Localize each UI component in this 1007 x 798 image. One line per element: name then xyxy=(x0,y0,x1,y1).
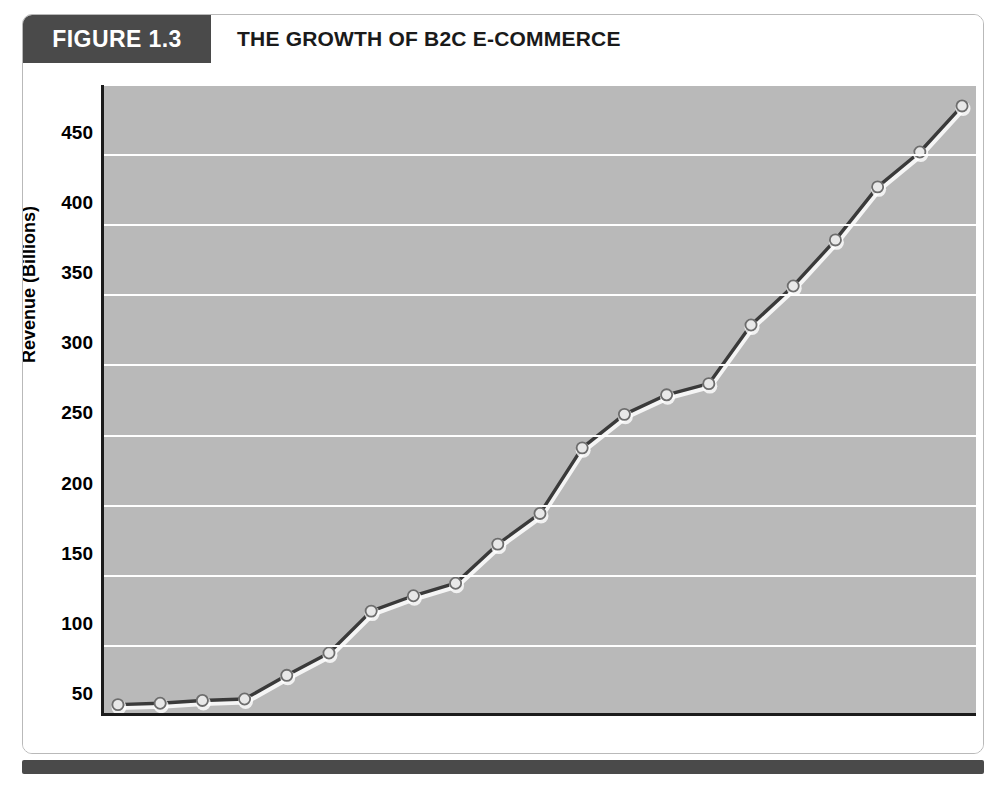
gridline-250 xyxy=(104,364,976,366)
data-point-marker xyxy=(239,693,250,704)
figure-footer-bar xyxy=(22,760,984,774)
data-point-marker xyxy=(788,280,799,291)
data-point-marker xyxy=(366,606,377,617)
data-point-marker xyxy=(534,508,545,519)
chart-area: Revenue (Billions) 050100150200250300350… xyxy=(23,63,983,753)
y-tick-label: 450 xyxy=(61,122,93,144)
data-point-marker xyxy=(703,378,714,389)
data-point-marker xyxy=(112,699,123,710)
y-tick-label: 300 xyxy=(61,332,93,354)
y-tick-label: 150 xyxy=(61,543,93,565)
line-series-chart xyxy=(104,85,976,713)
data-point-marker xyxy=(872,181,883,192)
data-point-marker xyxy=(155,698,166,709)
gridline-100 xyxy=(104,575,976,577)
plot-background xyxy=(101,85,976,716)
data-point-marker xyxy=(323,647,334,658)
figure-number-label: FIGURE 1.3 xyxy=(23,15,211,63)
y-tick-label: 0 xyxy=(82,753,93,754)
gridline-150 xyxy=(104,505,976,507)
data-point-marker xyxy=(408,590,419,601)
figure-card: FIGURE 1.3 THE GROWTH OF B2C E-COMMERCE … xyxy=(22,14,984,754)
data-point-marker xyxy=(197,695,208,706)
y-tick-label: 400 xyxy=(61,192,93,214)
gridline-300 xyxy=(104,294,976,296)
y-tick-label: 50 xyxy=(72,683,93,705)
series-line xyxy=(118,106,962,705)
data-point-marker xyxy=(577,442,588,453)
gridline-350 xyxy=(104,224,976,226)
y-tick-label: 350 xyxy=(61,262,93,284)
data-point-marker xyxy=(492,539,503,550)
gridline-450 xyxy=(104,84,976,86)
y-tick-label: 100 xyxy=(61,613,93,635)
y-tick-label: 200 xyxy=(61,473,93,495)
gridline-50 xyxy=(104,645,976,647)
plot-area xyxy=(101,85,976,716)
data-point-marker xyxy=(450,578,461,589)
data-point-marker xyxy=(619,409,630,420)
data-point-marker xyxy=(956,100,967,111)
y-axis-ticks: 050100150200250300350400450 xyxy=(23,133,93,754)
y-tick-label: 250 xyxy=(61,402,93,424)
data-point-marker xyxy=(281,670,292,681)
gridline-200 xyxy=(104,435,976,437)
data-point-marker xyxy=(661,389,672,400)
gridline-400 xyxy=(104,154,976,156)
data-point-marker xyxy=(830,234,841,245)
data-point-marker xyxy=(745,319,756,330)
figure-header: FIGURE 1.3 THE GROWTH OF B2C E-COMMERCE xyxy=(23,15,983,64)
series-line-shadow xyxy=(119,109,963,708)
figure-title: THE GROWTH OF B2C E-COMMERCE xyxy=(211,15,983,63)
